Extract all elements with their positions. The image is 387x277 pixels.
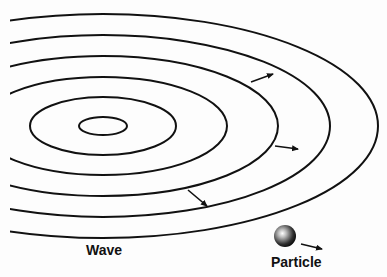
wave-ring	[0, 56, 278, 196]
diagram-canvas	[0, 0, 387, 277]
wave-ring	[0, 77, 227, 175]
wave-ring	[0, 35, 330, 217]
arrow-icon	[275, 146, 298, 149]
wave-label: Wave	[86, 242, 122, 258]
wave-particle-diagram: Wave Particle	[0, 0, 387, 277]
particle-motion-arrow	[301, 244, 322, 249]
arrow-icon	[251, 74, 273, 82]
arrow-icon	[188, 190, 207, 206]
wave-propagation-arrows	[188, 74, 298, 206]
wave-ring	[79, 117, 127, 135]
particle-sphere-icon	[274, 225, 296, 247]
wave-rings	[0, 14, 378, 238]
wave-ring	[30, 97, 176, 155]
particle-label: Particle	[271, 254, 322, 270]
wave-ring	[0, 14, 378, 238]
